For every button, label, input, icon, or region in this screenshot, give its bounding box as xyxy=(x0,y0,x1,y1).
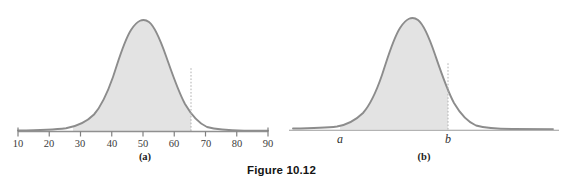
figure-10-12: 10 20 30 40 50 60 70 80 90 (a) a xyxy=(0,0,563,186)
shaded-area-b xyxy=(293,18,553,130)
axis-tick-label-a-2: 30 xyxy=(68,138,92,150)
axis-tick-label-a-0: 10 xyxy=(6,138,30,150)
variable-label-b: b xyxy=(438,133,458,146)
axis-tick-label-a-5: 60 xyxy=(162,138,186,150)
panel-a: 10 20 30 40 50 60 70 80 90 (a) xyxy=(0,0,290,166)
axis-tick-label-a-6: 70 xyxy=(194,138,218,150)
shaded-area-a xyxy=(18,20,268,131)
variable-label-a: a xyxy=(330,133,350,146)
panel-b-plot xyxy=(285,0,563,166)
panel-b-caption: (b) xyxy=(394,151,454,163)
axis-tick-label-a-3: 40 xyxy=(100,138,124,150)
axis-tick-label-a-8: 90 xyxy=(256,138,280,150)
axis-tick-label-a-1: 20 xyxy=(37,138,61,150)
axis-tick-label-a-4: 50 xyxy=(131,138,155,150)
axis-tick-label-a-7: 80 xyxy=(225,138,249,150)
panel-b: a b (b) xyxy=(285,0,563,166)
panel-a-caption: (a) xyxy=(115,151,175,163)
figure-caption: Figure 10.12 xyxy=(0,164,563,176)
